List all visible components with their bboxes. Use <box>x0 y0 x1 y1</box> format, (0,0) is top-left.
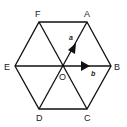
vector-label-a: a <box>69 34 73 41</box>
vertex-label-d: D <box>36 113 43 123</box>
vertex-label-b: B <box>114 62 120 72</box>
vector-label-b: b <box>91 70 96 77</box>
vertex-label-e: E <box>4 62 10 72</box>
vertex-label-f: F <box>35 9 41 19</box>
hexagon-diagram: F A B C D E O a b <box>0 0 127 127</box>
vertex-label-c: C <box>84 113 91 123</box>
vertex-label-a: A <box>84 9 90 19</box>
vector-a-arrow-icon <box>68 43 76 54</box>
vector-b-arrow-icon <box>81 61 90 71</box>
center-label-o: O <box>59 72 66 82</box>
